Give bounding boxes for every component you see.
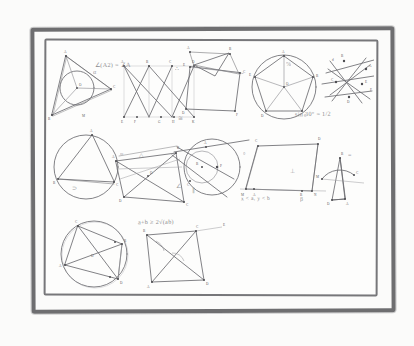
svg-text:F: F bbox=[370, 88, 372, 92]
svg-text:A: A bbox=[282, 50, 285, 54]
fig-triangle-arc: BD AM C bbox=[316, 152, 364, 206]
svg-text:A: A bbox=[204, 141, 207, 145]
mark-perpendicular: ⊥ bbox=[290, 167, 295, 174]
mark-congruent: ≅ bbox=[178, 114, 183, 121]
svg-text:K: K bbox=[192, 120, 195, 124]
svg-text:F: F bbox=[236, 113, 238, 117]
svg-text:E: E bbox=[223, 223, 225, 227]
svg-text:D: D bbox=[120, 281, 123, 285]
svg-text:A: A bbox=[90, 129, 93, 133]
fig-trapezoid: CD MA BN bbox=[240, 137, 326, 197]
svg-text:B: B bbox=[143, 229, 146, 233]
geometry-sketches: A C B O M AB CD EF GH K bbox=[44, 39, 374, 292]
svg-text:B: B bbox=[229, 47, 232, 51]
svg-text:B: B bbox=[48, 117, 51, 121]
fig-inscribed-triangle: AB C bbox=[53, 129, 119, 199]
svg-text:E: E bbox=[365, 80, 367, 84]
fig-pentagon-crossings: AB CE DF bbox=[182, 46, 246, 117]
mark-percent: % bbox=[286, 61, 291, 67]
note-amgm-inequality: a+b ≥ 2√(ab) bbox=[138, 218, 174, 225]
svg-text:A: A bbox=[112, 155, 115, 159]
svg-text:B: B bbox=[53, 181, 56, 185]
svg-text:B: B bbox=[341, 152, 344, 156]
svg-text:D: D bbox=[261, 114, 264, 118]
fig-cyclic-quadrilateral: CB DA O bbox=[59, 220, 128, 288]
mark-similar: ∼ bbox=[239, 69, 244, 76]
svg-text:G: G bbox=[158, 120, 161, 124]
svg-text:D: D bbox=[119, 199, 122, 203]
note-inequality-pair: x < a, y < b bbox=[241, 195, 270, 201]
svg-text:P: P bbox=[220, 164, 222, 168]
svg-text:C: C bbox=[113, 85, 116, 89]
fig-circumscribed-pentagon: AB CD EO bbox=[249, 50, 319, 119]
svg-text:B: B bbox=[196, 162, 199, 166]
svg-text:O: O bbox=[79, 83, 82, 87]
mark-alpha: α bbox=[93, 69, 96, 75]
svg-text:M: M bbox=[82, 114, 85, 118]
svg-text:A: A bbox=[59, 264, 62, 268]
svg-text:N: N bbox=[314, 193, 317, 197]
svg-text:F: F bbox=[134, 120, 136, 124]
svg-text:C: C bbox=[356, 171, 359, 175]
svg-text:C: C bbox=[186, 203, 189, 207]
svg-text:M: M bbox=[316, 175, 319, 179]
svg-text:C: C bbox=[75, 220, 78, 224]
note-sine-identity: sin 30° = 1/2 bbox=[295, 110, 331, 117]
svg-text:E: E bbox=[249, 73, 251, 77]
mark-degree: ° bbox=[243, 152, 245, 158]
svg-text:D: D bbox=[318, 137, 321, 141]
mark-parallel: ∥ bbox=[192, 186, 195, 193]
svg-text:D: D bbox=[206, 282, 209, 286]
mark-equals: = bbox=[348, 152, 351, 158]
mark-approx: ≈ bbox=[120, 151, 123, 157]
svg-text:A: A bbox=[346, 202, 349, 206]
svg-text:B: B bbox=[146, 60, 149, 64]
mark-angle: ∠ bbox=[176, 182, 181, 189]
fig-quad-angle-arcs: BC DA E bbox=[143, 223, 225, 289]
drawing-board: A C B O M AB CD EF GH K bbox=[44, 39, 374, 292]
svg-text:A: A bbox=[147, 285, 150, 289]
svg-text:B: B bbox=[316, 74, 319, 78]
svg-text:A: A bbox=[187, 46, 190, 50]
svg-text:d: d bbox=[332, 58, 334, 62]
svg-text:C: C bbox=[116, 183, 119, 187]
svg-text:A: A bbox=[64, 50, 67, 54]
sketch-page: A C B O M AB CD EF GH K bbox=[0, 0, 414, 346]
mark-beta: β bbox=[300, 196, 303, 202]
mark-two-label: ⊃ bbox=[72, 184, 77, 191]
fig-two-circles-secant: AB PC bbox=[172, 139, 249, 197]
svg-text:C: C bbox=[196, 225, 199, 229]
svg-text:C: C bbox=[169, 60, 172, 64]
mark-triangle: △ bbox=[139, 151, 144, 158]
svg-text:D: D bbox=[327, 202, 330, 206]
mark-therefore: ∴ bbox=[175, 64, 179, 71]
note-angle-formula: ∠(A2) = ∠A bbox=[95, 61, 131, 68]
svg-text:B: B bbox=[124, 239, 127, 243]
svg-text:E: E bbox=[121, 120, 123, 124]
svg-text:C: C bbox=[255, 139, 258, 143]
fig-quad-diagonals: AB CD O bbox=[112, 146, 189, 207]
svg-text:D: D bbox=[347, 100, 350, 104]
svg-text:A: A bbox=[369, 64, 372, 68]
svg-text:C: C bbox=[331, 78, 334, 82]
svg-text:H: H bbox=[172, 120, 175, 124]
fig-transversal-lines: BA CE Dd F bbox=[322, 54, 374, 104]
svg-text:B: B bbox=[341, 54, 344, 58]
svg-text:E: E bbox=[183, 63, 185, 67]
